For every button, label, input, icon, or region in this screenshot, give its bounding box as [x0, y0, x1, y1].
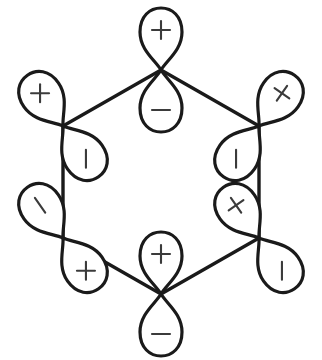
orbital-bottom	[140, 232, 182, 356]
benzene-orbital-svg	[0, 0, 322, 360]
orbital-top	[140, 8, 182, 132]
orbital-diagram-figure	[0, 0, 322, 360]
orbital-bottom-negative-lobe	[140, 294, 182, 356]
